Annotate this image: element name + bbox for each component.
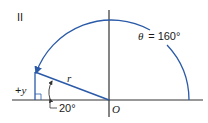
y-component-label: +y <box>15 84 26 96</box>
angle-value: = 160° <box>148 30 180 42</box>
polar-vector-diagram: II θ = 160° r +y 20° O <box>0 0 208 123</box>
y-symbol: y <box>20 84 26 96</box>
reference-angle-arc <box>49 81 52 99</box>
reference-angle-label: 20° <box>59 102 76 114</box>
theta-symbol: θ <box>138 30 144 42</box>
vector-r <box>35 72 109 100</box>
origin-label: O <box>112 103 120 115</box>
angle-arc-lower <box>167 45 189 100</box>
quadrant-label: II <box>17 11 23 23</box>
angle-arc-upper <box>36 20 150 73</box>
angle-label: θ = 160° <box>138 30 180 42</box>
vector-label: r <box>67 72 72 84</box>
right-angle-marker <box>35 94 41 100</box>
